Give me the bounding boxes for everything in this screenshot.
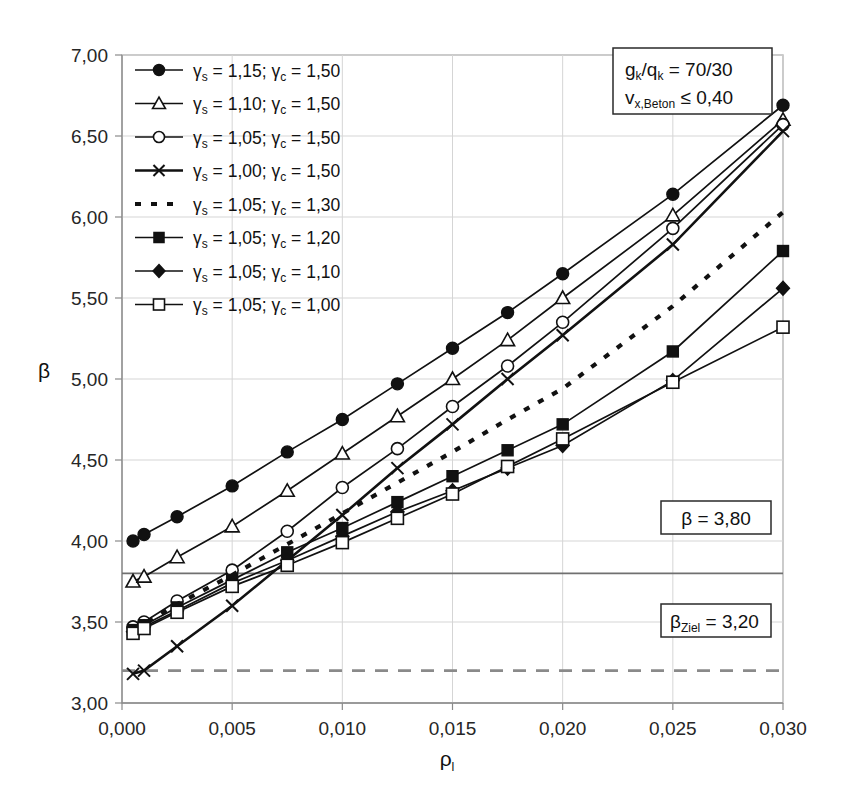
- beta-reliability-chart: 3,003,504,004,505,005,506,006,507,00 0,0…: [0, 0, 852, 791]
- data-point-marker-cross: [171, 640, 183, 652]
- data-series-layer: [126, 99, 790, 680]
- x-tick-labels: 0,0000,0050,0100,0150,0200,0250,030: [98, 718, 807, 739]
- x-tick-label: 0,005: [208, 718, 256, 739]
- data-point-marker-triangle-open: [390, 409, 404, 422]
- data-point-marker-cross: [391, 462, 403, 474]
- data-point-marker-circle-open: [777, 119, 789, 131]
- data-point-marker-square-filled: [557, 419, 568, 430]
- y-tick-label: 5,00: [71, 369, 108, 390]
- data-point-marker-triangle-open: [335, 447, 349, 460]
- legend-entry-label: γs = 1,05; γc = 1,00: [193, 295, 341, 318]
- data-point-marker-triangle-open: [137, 570, 151, 583]
- data-point-marker-diamond-filled: [153, 265, 165, 278]
- data-point-marker-circle-filled: [336, 414, 348, 426]
- x-axis-title-base: ρ: [440, 747, 452, 770]
- annotation-box-conditions: gk/qk = 70/30 vx,Beton ≤ 0,40: [613, 48, 772, 114]
- vx-beton-value: 0,40: [696, 87, 733, 108]
- data-point-marker-circle-open: [557, 316, 569, 328]
- data-point-marker-circle-filled: [391, 378, 403, 390]
- data-point-marker-triangle-open: [280, 484, 294, 497]
- legend-entry-6: γs = 1,05; γc = 1,10: [135, 262, 341, 285]
- data-point-marker-square-open: [502, 460, 514, 472]
- data-point-marker-circle-open: [447, 401, 459, 413]
- data-point-marker-triangle-open: [556, 291, 570, 304]
- data-point-marker-square-open: [447, 488, 459, 500]
- data-point-marker-circle-filled: [226, 480, 238, 492]
- data-point-marker-square-open: [667, 376, 679, 388]
- y-axis-title: β: [38, 359, 50, 382]
- legend-entry-label: γs = 1,00; γc = 1,50: [193, 161, 341, 184]
- data-point-marker-square-filled: [502, 445, 513, 456]
- data-point-marker-circle-filled: [171, 511, 183, 523]
- legend-entry-2: γs = 1,05; γc = 1,50: [135, 128, 341, 151]
- beta-ziel-value: 3,20: [722, 611, 759, 632]
- data-point-marker-square-open: [171, 606, 183, 618]
- data-point-marker-square-open: [153, 299, 164, 310]
- data-point-marker-square-filled: [667, 346, 678, 357]
- legend-entry-3: γs = 1,00; γc = 1,50: [135, 161, 341, 184]
- y-tick-label: 3,50: [71, 612, 108, 633]
- x-tick-label: 0,020: [539, 718, 587, 739]
- gk-qk-label: gk/qk = 70/30: [625, 59, 733, 83]
- chart-legend: γs = 1,15; γc = 1,50γs = 1,10; γc = 1,50…: [135, 61, 341, 319]
- gk-qk-value: 70/30: [685, 59, 733, 80]
- data-point-marker-circle-open: [391, 443, 403, 455]
- legend-entry-label: γs = 1,05; γc = 1,10: [193, 262, 341, 285]
- data-point-marker-circle-filled: [777, 99, 789, 111]
- data-point-marker-square-open: [557, 433, 569, 445]
- data-point-marker-circle-open: [281, 525, 293, 537]
- y-tick-label: 4,00: [71, 531, 108, 552]
- legend-entry-1: γs = 1,10; γc = 1,50: [135, 94, 341, 117]
- y-tick-label: 4,50: [71, 450, 108, 471]
- data-point-marker-circle-filled: [127, 535, 139, 547]
- data-point-marker-square-open: [127, 627, 139, 639]
- legend-entry-label: γs = 1,05; γc = 1,30: [193, 195, 341, 218]
- data-point-marker-circle-open: [502, 360, 514, 372]
- data-point-marker-circle-open: [336, 482, 348, 494]
- data-point-marker-square-open: [777, 321, 789, 333]
- legend-entry-4: γs = 1,05; γc = 1,30: [135, 195, 341, 218]
- data-point-marker-square-open: [226, 580, 238, 592]
- y-tick-label: 3,00: [71, 693, 108, 714]
- data-point-marker-circle-filled: [138, 529, 150, 541]
- x-tick-label: 0,030: [759, 718, 807, 739]
- data-point-marker-square-open: [336, 537, 348, 549]
- x-tick-label: 0,000: [98, 718, 146, 739]
- legend-entry-label: γs = 1,10; γc = 1,50: [193, 94, 341, 117]
- annotation-box-beta-ziel: βZiel = 3,20: [661, 604, 771, 637]
- y-tick-label: 5,50: [71, 288, 108, 309]
- data-point-marker-circle-filled: [153, 64, 164, 75]
- data-point-marker-circle-filled: [502, 307, 514, 319]
- data-point-marker-circle-filled: [667, 188, 679, 200]
- x-tick-label: 0,010: [319, 718, 367, 739]
- data-point-marker-square-open: [281, 559, 293, 571]
- chart-container: 3,003,504,004,505,005,506,006,507,00 0,0…: [0, 0, 852, 791]
- y-tick-labels: 3,003,504,004,505,005,506,006,507,00: [71, 45, 108, 714]
- legend-entry-0: γs = 1,15; γc = 1,50: [135, 61, 341, 84]
- data-point-marker-square-filled: [447, 471, 458, 482]
- data-point-marker-triangle-open: [225, 519, 239, 532]
- y-tick-label: 6,50: [71, 126, 108, 147]
- y-tick-label: 7,00: [71, 45, 108, 66]
- data-point-marker-square-open: [391, 512, 403, 524]
- data-point-marker-circle-open: [153, 131, 164, 142]
- data-point-marker-circle-open: [667, 222, 679, 234]
- x-axis-title: ρl: [440, 747, 455, 774]
- data-point-marker-circle-filled: [557, 268, 569, 280]
- data-point-marker-circle-filled: [281, 446, 293, 458]
- data-point-marker-triangle-open: [446, 372, 460, 385]
- data-point-marker-triangle-open: [170, 550, 184, 563]
- legend-entry-label: γs = 1,05; γc = 1,50: [193, 128, 341, 151]
- data-point-marker-square-filled: [778, 246, 789, 257]
- data-point-marker-circle-filled: [447, 342, 459, 354]
- legend-entry-label: γs = 1,15; γc = 1,50: [193, 61, 341, 84]
- x-tick-label: 0,015: [429, 718, 477, 739]
- data-point-marker-square-open: [138, 622, 150, 634]
- x-axis-title-sub: l: [452, 760, 455, 774]
- legend-entry-5: γs = 1,05; γc = 1,20: [135, 228, 341, 251]
- legend-entry-label: γs = 1,05; γc = 1,20: [193, 228, 341, 251]
- y-tick-label: 6,00: [71, 207, 108, 228]
- data-point-marker-square-filled: [154, 232, 164, 242]
- beta-box-label: β = 3,80: [681, 508, 751, 529]
- data-point-marker-triangle-open: [501, 333, 515, 346]
